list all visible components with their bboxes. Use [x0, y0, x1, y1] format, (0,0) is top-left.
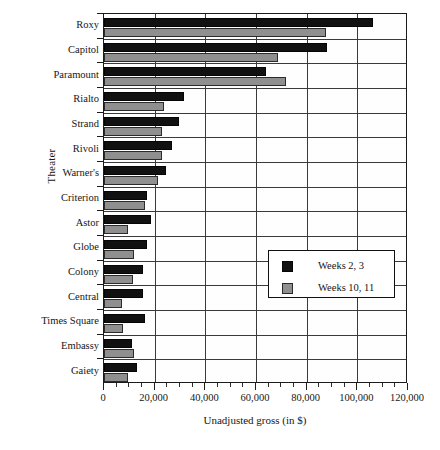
x-tick-major: [154, 383, 155, 390]
bar-group: [104, 137, 406, 162]
x-tick-major: [356, 383, 357, 390]
x-tick-minor: [344, 383, 345, 387]
x-tick-minor: [192, 383, 193, 387]
x-tick-minor: [369, 383, 370, 387]
bar-weeks-2-3: [104, 339, 132, 348]
bar-weeks-2-3: [104, 265, 143, 274]
y-tick-label: Globe: [0, 241, 99, 253]
y-tick-label: Roxy: [0, 19, 99, 31]
bar-weeks-10-11: [104, 299, 122, 308]
bar-weeks-2-3: [104, 67, 266, 76]
bar-weeks-10-11: [104, 151, 162, 160]
bar-weeks-2-3: [104, 215, 151, 224]
y-tick-label: Capitol: [0, 44, 99, 56]
y-tick-label: Gaiety: [0, 365, 99, 377]
bar-weeks-2-3: [104, 363, 137, 372]
legend-swatch-black: [282, 261, 293, 272]
bar-weeks-2-3: [104, 117, 179, 126]
bar-weeks-2-3: [104, 18, 373, 27]
bar-weeks-10-11: [104, 225, 128, 234]
bar-weeks-2-3: [104, 191, 147, 200]
x-tick-label: 120,000: [372, 392, 440, 403]
bar-group: [104, 310, 406, 335]
bar-weeks-10-11: [104, 373, 128, 382]
x-tick-minor: [382, 383, 383, 387]
y-tick-label: Colony: [0, 266, 99, 278]
x-tick-minor: [230, 383, 231, 387]
bar-group: [104, 88, 406, 113]
bar-weeks-10-11: [104, 201, 145, 210]
bar-weeks-2-3: [104, 166, 166, 175]
x-tick-major: [255, 383, 256, 390]
bar-weeks-2-3: [104, 240, 147, 249]
legend-swatch-gray: [282, 283, 293, 294]
bar-weeks-10-11: [104, 349, 134, 358]
bar-weeks-2-3: [104, 314, 145, 323]
bar-group: [104, 211, 406, 236]
x-tick-minor: [394, 383, 395, 387]
x-tick-minor: [217, 383, 218, 387]
x-tick-minor: [280, 383, 281, 387]
bar-chart-figure: Theater RoxyCapitolParamountRialtoStrand…: [0, 0, 440, 450]
legend-label: Weeks 10, 11: [318, 282, 374, 293]
x-tick-minor: [141, 383, 142, 387]
bar-weeks-10-11: [104, 176, 158, 185]
bar-group: [104, 63, 406, 88]
x-tick-major: [407, 383, 408, 390]
x-tick-minor: [318, 383, 319, 387]
bar-weeks-10-11: [104, 53, 278, 62]
chart-legend: Weeks 2, 3Weeks 10, 11: [268, 250, 395, 298]
x-tick-major: [204, 383, 205, 390]
bar-group: [104, 14, 406, 39]
bar-group: [104, 162, 406, 187]
x-tick-minor: [116, 383, 117, 387]
y-tick-label: Astor: [0, 217, 99, 229]
plot-area: [103, 13, 407, 383]
bar-group: [104, 359, 406, 384]
bar-weeks-2-3: [104, 289, 143, 298]
y-tick-label: Embassy: [0, 340, 99, 352]
x-tick-minor: [293, 383, 294, 387]
bar-weeks-2-3: [104, 92, 184, 101]
legend-label: Weeks 2, 3: [318, 260, 364, 271]
x-tick-minor: [242, 383, 243, 387]
bar-weeks-10-11: [104, 324, 123, 333]
bar-group: [104, 335, 406, 360]
x-axis-title: Unadjusted gross (in $): [103, 414, 407, 426]
bar-group: [104, 187, 406, 212]
y-tick-label: Criterion: [0, 192, 99, 204]
y-tick-label: Rialto: [0, 93, 99, 105]
bar-group: [104, 113, 406, 138]
x-tick-minor: [166, 383, 167, 387]
bar-weeks-10-11: [104, 275, 133, 284]
y-tick-label: Paramount: [0, 69, 99, 81]
bar-group: [104, 39, 406, 64]
bar-weeks-10-11: [104, 77, 286, 86]
x-tick-major: [306, 383, 307, 390]
bar-weeks-10-11: [104, 127, 162, 136]
y-tick-label: Strand: [0, 118, 99, 130]
y-tick-label: Rivoli: [0, 143, 99, 155]
bar-weeks-10-11: [104, 28, 326, 37]
x-tick-minor: [179, 383, 180, 387]
x-tick-minor: [331, 383, 332, 387]
bar-weeks-10-11: [104, 250, 134, 259]
bar-weeks-2-3: [104, 43, 327, 52]
y-tick-label: Central: [0, 291, 99, 303]
x-tick-major: [103, 383, 104, 390]
y-tick-label: Warner's: [0, 167, 99, 179]
x-tick-minor: [268, 383, 269, 387]
y-tick-label: Times Square: [0, 315, 99, 327]
bar-weeks-2-3: [104, 141, 172, 150]
x-tick-minor: [128, 383, 129, 387]
bar-weeks-10-11: [104, 102, 164, 111]
